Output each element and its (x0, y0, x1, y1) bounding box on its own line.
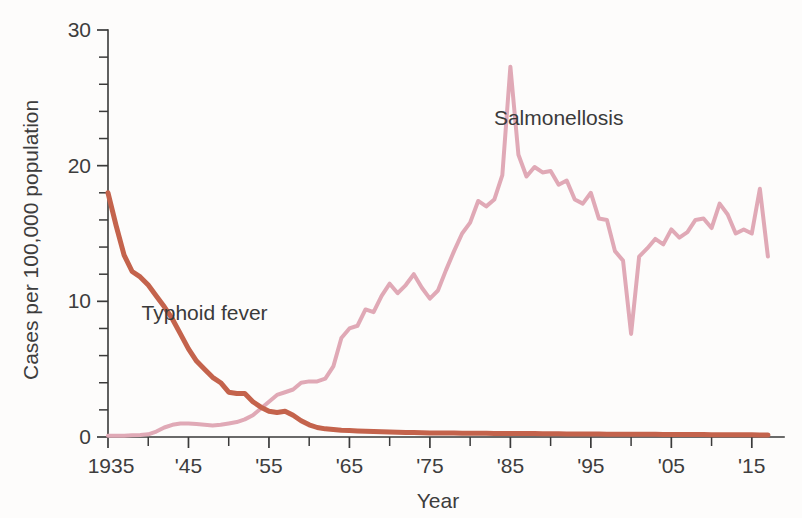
y-axis-ticks (97, 30, 108, 437)
y-tick-label: 30 (68, 18, 91, 41)
epidemiology-line-chart: 0102030 1935'45'55'65'75'85'95'05'15 Sal… (0, 0, 802, 518)
x-tick-label: 1935 (88, 454, 135, 477)
series-annotation: Salmonellosis (494, 106, 624, 129)
series-annotation: Typhoid fever (142, 301, 268, 324)
y-axis-tick-labels: 0102030 (68, 18, 91, 448)
x-tick-label: '05 (658, 454, 685, 477)
y-tick-label: 0 (79, 425, 91, 448)
x-tick-label: '85 (497, 454, 524, 477)
series-line-salmonellosis (108, 67, 768, 436)
y-axis-title: Cases per 100,000 population (19, 100, 42, 380)
x-tick-label: '45 (175, 454, 202, 477)
chart-figure: 0102030 1935'45'55'65'75'85'95'05'15 Sal… (0, 0, 802, 518)
y-tick-label: 10 (68, 289, 91, 312)
x-tick-label: '65 (336, 454, 363, 477)
x-axis-ticks (108, 437, 752, 448)
chart-axes: 0102030 1935'45'55'65'75'85'95'05'15 (68, 18, 784, 477)
chart-series (108, 67, 768, 436)
x-tick-label: '55 (255, 454, 282, 477)
x-tick-label: '15 (738, 454, 765, 477)
y-tick-label: 20 (68, 154, 91, 177)
x-tick-label: '75 (416, 454, 443, 477)
x-axis-title: Year (417, 489, 459, 512)
x-tick-label: '95 (577, 454, 604, 477)
x-axis-tick-labels: 1935'45'55'65'75'85'95'05'15 (88, 454, 766, 477)
